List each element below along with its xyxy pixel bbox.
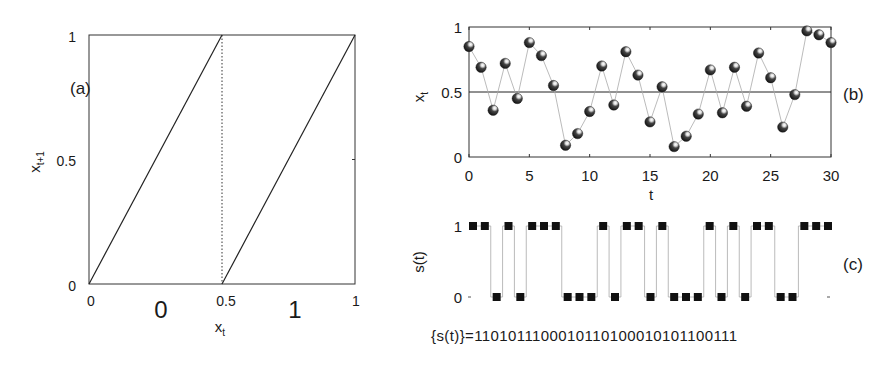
data-point xyxy=(548,80,558,90)
data-point xyxy=(718,293,726,301)
series-line xyxy=(469,31,831,147)
data-point xyxy=(693,109,703,119)
data-point xyxy=(540,222,548,230)
data-point xyxy=(670,293,678,301)
data-point xyxy=(572,128,582,138)
panel-a-ytick: 1 xyxy=(68,29,76,45)
data-point xyxy=(488,105,498,115)
data-point xyxy=(560,140,570,150)
data-point xyxy=(481,222,489,230)
data-point xyxy=(516,293,524,301)
data-point xyxy=(765,73,775,83)
panel-c-ylabel: s(t) xyxy=(410,251,427,273)
panel-a: (a) 1 0.5 0 0 0.5 1 0 1 xt xt+1 xyxy=(26,29,360,338)
data-point xyxy=(681,131,691,141)
panel-b-ytick: 0 xyxy=(454,149,462,166)
data-point xyxy=(765,222,773,230)
data-point xyxy=(500,58,510,68)
panel-c-ytick: 1 xyxy=(454,218,462,235)
data-point xyxy=(505,222,513,230)
data-point xyxy=(669,141,679,151)
data-point xyxy=(658,222,666,230)
panel-c-ytick: 0 xyxy=(454,289,462,306)
data-point xyxy=(647,293,655,301)
data-point xyxy=(778,122,788,132)
panel-a-ytick: 0.5 xyxy=(57,153,77,169)
panel-a-xlabel: xt xyxy=(215,318,226,338)
panel-a-xtick: 0 xyxy=(87,293,95,309)
panel-b-xtick: 30 xyxy=(823,167,840,184)
branch-left xyxy=(89,35,222,284)
panel-b: 1 0.5 0 051015202530 t xt (b) xyxy=(410,19,864,203)
panel-b-xtick: 0 xyxy=(465,167,473,184)
data-point xyxy=(729,62,739,72)
data-point xyxy=(717,108,727,118)
data-point xyxy=(464,41,474,51)
data-point xyxy=(576,293,584,301)
panel-a-xtick: 0.5 xyxy=(216,293,236,309)
data-point xyxy=(657,82,667,92)
sequence-text: {s(t)}=1101011100010110100010101100111 xyxy=(431,327,737,344)
data-point xyxy=(633,70,643,80)
data-point xyxy=(476,62,486,72)
panel-b-xtick: 20 xyxy=(702,167,719,184)
data-point xyxy=(552,222,560,230)
panel-a-ylabel: xt+1 xyxy=(26,151,46,173)
data-point xyxy=(753,222,761,230)
data-point xyxy=(597,61,607,71)
data-point xyxy=(611,293,619,301)
data-point xyxy=(469,222,477,230)
data-point xyxy=(645,117,655,127)
data-point xyxy=(524,37,534,47)
data-point xyxy=(741,293,749,301)
data-point xyxy=(587,293,595,301)
panel-c: 1 0 s(t) (c) {s(t)}=11010111000101101000… xyxy=(410,218,863,344)
data-point xyxy=(753,48,763,58)
data-point xyxy=(741,101,751,111)
data-point xyxy=(682,293,690,301)
data-point xyxy=(564,293,572,301)
panel-b-ylabel: xt xyxy=(410,92,430,103)
panel-a-xtick: 1 xyxy=(352,293,360,309)
data-point xyxy=(824,222,832,230)
data-point xyxy=(493,293,501,301)
panel-c-label: (c) xyxy=(843,255,863,274)
data-point xyxy=(705,65,715,75)
data-point xyxy=(729,222,737,230)
region-label-1: 1 xyxy=(288,296,301,323)
data-point xyxy=(706,222,714,230)
data-point xyxy=(777,293,785,301)
data-point xyxy=(584,106,594,116)
region-label-0: 0 xyxy=(154,296,167,323)
data-point xyxy=(599,222,607,230)
data-point xyxy=(623,222,631,230)
data-point xyxy=(528,222,536,230)
panel-b-xtick: 5 xyxy=(525,167,533,184)
panel-b-label: (b) xyxy=(843,85,864,104)
data-point xyxy=(800,222,808,230)
data-point xyxy=(635,222,643,230)
figure: (a) 1 0.5 0 0 0.5 1 0 1 xt xt+1 1 0.5 0 … xyxy=(0,0,885,365)
panel-a-ytick: 0 xyxy=(68,278,76,294)
data-point xyxy=(789,293,797,301)
panel-a-label: (a) xyxy=(70,79,91,98)
data-point xyxy=(609,100,619,110)
data-point xyxy=(694,293,702,301)
step-line xyxy=(473,226,828,297)
panel-b-xlabel: t xyxy=(649,186,654,203)
panel-b-ytick: 0.5 xyxy=(441,84,462,101)
panel-b-xtick: 10 xyxy=(581,167,598,184)
data-point xyxy=(802,26,812,36)
data-point xyxy=(536,50,546,60)
data-point xyxy=(512,93,522,103)
data-point xyxy=(826,37,836,47)
branch-right xyxy=(222,35,355,284)
data-point xyxy=(621,47,631,57)
panel-b-ytick: 1 xyxy=(454,19,462,36)
data-point xyxy=(814,30,824,40)
panel-b-xtick: 25 xyxy=(762,167,779,184)
panel-b-xtick: 15 xyxy=(642,167,659,184)
panel-a-frame xyxy=(89,35,355,284)
data-point xyxy=(790,89,800,99)
data-point xyxy=(812,222,820,230)
